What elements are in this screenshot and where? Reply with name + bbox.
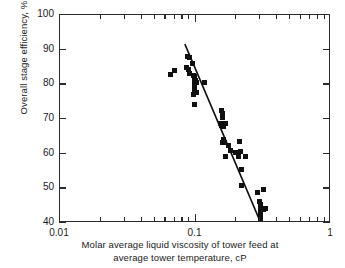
x-axis-title-line1: Molar average liquid viscosity of tower … (82, 239, 279, 250)
y-axis-tick-right (323, 49, 330, 50)
x-axis-title: Molar average liquid viscosity of tower … (35, 239, 325, 264)
y-axis-tick (59, 49, 66, 50)
data-point (190, 61, 195, 66)
x-axis-tick-bottom (174, 217, 175, 222)
data-point (255, 190, 260, 195)
data-point (202, 80, 207, 85)
x-axis-tick-top (164, 14, 165, 19)
x-axis-tick-top (181, 14, 182, 19)
y-tick-label: 50 (28, 182, 54, 192)
y-axis-tick (59, 187, 66, 188)
x-axis-tick-bottom (276, 217, 277, 222)
y-axis-tick (59, 222, 66, 223)
x-axis-tick-bottom (141, 217, 142, 222)
x-axis-tick-bottom (309, 217, 310, 222)
plot-area (59, 14, 330, 222)
x-axis-tick-top (324, 14, 325, 19)
x-tick-label: 0.01 (39, 228, 79, 238)
x-tick-label: 0.1 (175, 228, 215, 238)
x-axis-tick-top (188, 14, 189, 19)
y-tick-label: 100 (28, 9, 54, 19)
x-axis-tick-bottom (195, 214, 196, 222)
y-axis-tick-right (323, 118, 330, 119)
x-axis-tick-top (276, 14, 277, 19)
x-axis-tick-bottom (124, 217, 125, 222)
x-axis-tick-bottom (289, 217, 290, 222)
data-point (221, 124, 226, 129)
y-tick-label: 90 (28, 44, 54, 54)
y-axis-tick (59, 153, 66, 154)
data-point (237, 139, 242, 144)
x-axis-tick-top (289, 14, 290, 19)
x-axis-tick-bottom (235, 217, 236, 222)
data-point (187, 55, 192, 60)
y-tick-label: 40 (28, 217, 54, 227)
x-axis-tick-top (309, 14, 310, 19)
x-axis-tick-top (259, 14, 260, 19)
chart-figure: Overall stage efficiency, % 405060708090… (0, 0, 345, 268)
y-axis-title: Overall stage efficiency, % (18, 0, 29, 133)
data-point (263, 206, 268, 211)
x-axis-tick-bottom (100, 217, 101, 222)
data-point (194, 90, 199, 95)
x-axis-tick-top (174, 14, 175, 19)
data-point (236, 154, 241, 159)
x-axis-tick-bottom (154, 217, 155, 222)
x-axis-tick-bottom (188, 217, 189, 222)
y-axis-tick (59, 14, 66, 15)
data-point (239, 167, 244, 172)
y-axis-tick-right (323, 153, 330, 154)
y-tick-label: 60 (28, 148, 54, 158)
data-point (192, 82, 197, 87)
x-axis-tick-top (100, 14, 101, 19)
y-axis-tick (59, 118, 66, 119)
x-axis-tick-top (235, 14, 236, 19)
y-axis-tick-right (323, 187, 330, 188)
x-axis-tick-bottom (317, 217, 318, 222)
x-axis-tick-top (317, 14, 318, 19)
y-axis-tick-right (323, 83, 330, 84)
y-tick-label: 80 (28, 78, 54, 88)
data-point (220, 115, 225, 120)
data-point (172, 68, 177, 73)
data-point (261, 187, 266, 192)
x-tick-label: 1 (310, 228, 345, 238)
x-axis-tick-top (141, 14, 142, 19)
x-axis-tick-top (195, 14, 196, 22)
x-axis-title-line2: average tower temperature, cP (113, 252, 246, 263)
x-axis-tick-top (300, 14, 301, 19)
scatter-series (60, 15, 330, 222)
x-axis-tick-bottom (324, 217, 325, 222)
y-axis-tick (59, 83, 66, 84)
x-axis-tick-bottom (181, 217, 182, 222)
x-axis-tick-bottom (259, 217, 260, 222)
data-point (220, 140, 225, 145)
data-point (239, 183, 244, 188)
data-point (223, 154, 228, 159)
y-axis-tick-right (323, 222, 330, 223)
x-axis-tick-bottom (300, 217, 301, 222)
data-point (243, 154, 248, 159)
x-axis-tick-bottom (164, 217, 165, 222)
x-axis-tick-top (124, 14, 125, 19)
y-tick-label: 70 (28, 113, 54, 123)
x-axis-tick-top (154, 14, 155, 19)
data-point (192, 102, 197, 107)
